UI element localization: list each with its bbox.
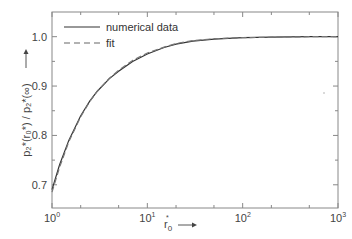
y-tick-label: 1.0 — [32, 31, 47, 43]
legend: numerical data fit — [64, 21, 179, 49]
y-tick-label: 0.7 — [32, 179, 47, 191]
chart: 100101102103 0.70.80.91.0 numerical data… — [0, 0, 352, 239]
legend-label-numerical-data: numerical data — [106, 21, 179, 33]
y-axis-label: p₂*(r₀*) / p₂*(∞) — [20, 49, 32, 157]
svg-text:p₂*(r₀*) / p₂*(∞): p₂*(r₀*) / p₂*(∞) — [20, 83, 32, 157]
x-tick-label: 103 — [330, 211, 346, 224]
arrow-right-icon — [192, 223, 197, 228]
y-axis-ticks: 0.70.80.91.0 — [32, 31, 338, 191]
y-tick-label: 0.8 — [32, 129, 47, 141]
svg-text:*: * — [166, 214, 169, 221]
x-axis-ticks: 100101102103 — [44, 12, 346, 224]
data-series — [52, 37, 338, 193]
numerical-data-line — [52, 37, 338, 190]
x-tick-label: 100 — [44, 211, 60, 224]
x-tick-label: 101 — [139, 211, 155, 224]
legend-label-fit: fit — [106, 37, 115, 49]
stray-dot — [323, 92, 324, 93]
y-tick-label: 0.9 — [32, 80, 47, 92]
x-axis-label: r0 * — [164, 214, 197, 233]
fit-line — [52, 37, 338, 193]
arrow-up-icon — [24, 49, 29, 54]
x-tick-label: 102 — [235, 211, 251, 224]
